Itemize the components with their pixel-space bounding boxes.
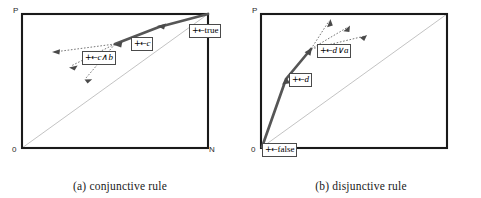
node-label-c: +←c xyxy=(131,37,153,51)
axis-label-n-a: N xyxy=(209,145,215,154)
caption-panel-b: (b) disjunctive rule xyxy=(241,180,481,192)
node-label-false: +←false xyxy=(262,143,297,157)
node-label-d: +←d xyxy=(289,73,312,87)
plus-left-arrow-icon: +← xyxy=(320,46,332,55)
caption-panel-a: (a) conjunctive rule xyxy=(0,180,240,192)
axis-origin-label-b: 0 xyxy=(251,145,255,154)
node-label-false-text: false xyxy=(277,144,294,154)
node-label-d-or-a-text: d∨a xyxy=(332,45,348,55)
node-label-true: +←true xyxy=(189,24,221,38)
node-label-true-text: true xyxy=(204,25,218,35)
panel-disjunctive-rule: P 0 +←false +←d +←d∨a (b) disjunctive ru… xyxy=(241,0,481,198)
node-label-c-and-b-text: c∧b xyxy=(97,52,113,62)
panel-conjunctive-rule: P 0 N +←true +←c +←c∧b (a) conjunctive r… xyxy=(0,0,240,198)
figure-coverage-plots: P 0 N +←true +←c +←c∧b (a) conjunctive r… xyxy=(0,0,481,198)
node-label-c-text: c xyxy=(146,38,150,48)
plus-left-arrow-icon: +← xyxy=(85,53,97,62)
fan-arrowheads-b xyxy=(327,19,367,41)
rule-path-b xyxy=(262,49,311,147)
plus-left-arrow-icon: +← xyxy=(265,145,277,154)
axis-label-p-a: P xyxy=(13,6,18,15)
axis-origin-label-a: 0 xyxy=(12,145,16,154)
plus-left-arrow-icon: +← xyxy=(192,26,204,35)
chance-diagonal-a xyxy=(22,14,208,148)
plot-b-canvas xyxy=(241,0,481,165)
node-label-d-or-a: +←d∨a xyxy=(317,44,351,58)
plus-left-arrow-icon: +← xyxy=(292,75,304,84)
plus-left-arrow-icon: +← xyxy=(134,39,146,48)
axis-label-p-b: P xyxy=(252,6,257,15)
node-label-d-text: d xyxy=(304,74,309,84)
node-label-c-and-b: +←c∧b xyxy=(82,51,116,65)
